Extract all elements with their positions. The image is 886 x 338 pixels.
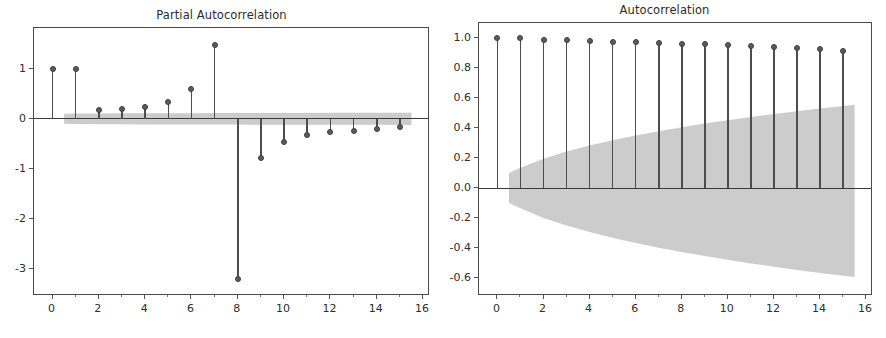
stem-lag-9: [260, 119, 262, 158]
stem-lag-7: [214, 45, 216, 119]
xtick-16: [865, 295, 866, 299]
xtick-14: [819, 295, 820, 299]
xtick-label-10: 10: [276, 302, 290, 315]
stem-marker-lag-3: [119, 106, 125, 112]
ytick-0.8: [474, 67, 478, 68]
ytick-1: [29, 68, 33, 69]
zero-baseline-pacf: [34, 118, 428, 119]
xtick-4: [589, 295, 590, 299]
xtick-minor-3: [121, 295, 122, 297]
xtick-minor-1: [75, 295, 76, 297]
xtick-6: [190, 295, 191, 299]
xtick-label-16: 16: [858, 302, 872, 315]
xtick-label-2: 2: [539, 302, 546, 315]
plot-area-acf: [478, 22, 872, 295]
ytick--0.4: [474, 247, 478, 248]
stem-marker-lag-8: [235, 276, 241, 282]
ytick-label-0.8: 0.8: [454, 61, 472, 74]
stem-lag-0: [497, 38, 499, 188]
chart-title-acf: Autocorrelation: [443, 3, 886, 17]
xtick-label-0: 0: [48, 302, 55, 315]
ytick-label-0.6: 0.6: [454, 91, 472, 104]
xtick-minor-1: [519, 295, 520, 297]
stem-lag-14: [819, 49, 821, 188]
ytick--3: [29, 268, 33, 269]
xtick-label-4: 4: [141, 302, 148, 315]
stem-lag-4: [589, 41, 591, 188]
plot-area-pacf: [33, 27, 429, 295]
xtick-6: [635, 295, 636, 299]
xtick-16: [422, 295, 423, 299]
xtick-minor-9: [704, 295, 705, 297]
ytick-label-1: 1: [19, 61, 26, 74]
ytick-0.4: [474, 127, 478, 128]
stem-lag-5: [612, 42, 614, 188]
stem-lag-0: [52, 69, 54, 119]
xtick-label-12: 12: [322, 302, 336, 315]
confidence-band-acf: [479, 23, 871, 294]
stem-lag-8: [681, 44, 683, 188]
stem-lag-10: [727, 45, 729, 188]
ytick-0: [29, 118, 33, 119]
xtick-label-8: 8: [233, 302, 240, 315]
stem-marker-lag-4: [142, 104, 148, 110]
xtick-label-14: 14: [369, 302, 383, 315]
ytick--0.2: [474, 217, 478, 218]
xtick-2: [543, 295, 544, 299]
stem-lag-9: [704, 44, 706, 188]
xtick-label-4: 4: [585, 302, 592, 315]
ytick--0.6: [474, 277, 478, 278]
stem-lag-13: [796, 48, 798, 188]
xtick-minor-15: [399, 295, 400, 297]
ytick-label--0.6: -0.6: [450, 271, 471, 284]
stem-marker-lag-1: [73, 66, 79, 72]
xtick-label-8: 8: [677, 302, 684, 315]
chart-title-pacf: Partial Autocorrelation: [0, 8, 443, 22]
xtick-minor-11: [306, 295, 307, 297]
xtick-minor-13: [796, 295, 797, 297]
stem-marker-lag-0: [50, 66, 56, 72]
xtick-label-0: 0: [493, 302, 500, 315]
stem-lag-11: [750, 46, 752, 188]
xtick-12: [773, 295, 774, 299]
xtick-10: [727, 295, 728, 299]
ytick--2: [29, 218, 33, 219]
stem-lag-15: [842, 51, 844, 188]
xtick-minor-5: [612, 295, 613, 297]
ytick-label--0.2: -0.2: [450, 211, 471, 224]
xtick-0: [52, 295, 53, 299]
stem-marker-lag-14: [374, 126, 380, 132]
xtick-label-10: 10: [720, 302, 734, 315]
xtick-12: [329, 295, 330, 299]
xtick-0: [496, 295, 497, 299]
confidence-band-pacf: [34, 28, 428, 294]
ytick-label--3: -3: [15, 261, 26, 274]
xtick-minor-3: [566, 295, 567, 297]
xtick-label-12: 12: [766, 302, 780, 315]
xtick-label-2: 2: [94, 302, 101, 315]
stem-lag-8: [237, 119, 239, 279]
stem-marker-lag-15: [840, 48, 846, 54]
xtick-2: [98, 295, 99, 299]
xtick-minor-15: [842, 295, 843, 297]
stem-marker-lag-8: [679, 41, 685, 47]
stem-marker-lag-6: [633, 39, 639, 45]
xtick-minor-7: [658, 295, 659, 297]
stem-marker-lag-7: [212, 42, 218, 48]
xtick-4: [144, 295, 145, 299]
stem-marker-lag-10: [281, 139, 287, 145]
zero-baseline-acf: [479, 188, 871, 189]
ytick-label-1.0: 1.0: [454, 31, 472, 44]
ytick-0.2: [474, 157, 478, 158]
stem-lag-12: [773, 47, 775, 188]
chart-panel-pacf: Partial Autocorrelation 024681012141610-…: [0, 0, 443, 338]
xtick-8: [237, 295, 238, 299]
stem-lag-3: [566, 40, 568, 188]
stem-marker-lag-3: [564, 37, 570, 43]
stem-marker-lag-2: [541, 37, 547, 43]
stem-lag-6: [191, 89, 193, 119]
stem-lag-6: [635, 42, 637, 188]
ytick-label--2: -2: [15, 211, 26, 224]
ytick--1: [29, 168, 33, 169]
xtick-minor-11: [750, 295, 751, 297]
